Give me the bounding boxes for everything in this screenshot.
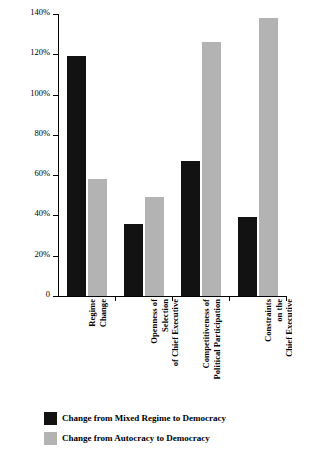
x-axis-category-label-line: of Chief Executive — [170, 299, 181, 403]
y-axis-line — [58, 14, 59, 296]
x-axis-category-label-line: Selection — [159, 299, 170, 403]
bar — [238, 217, 257, 296]
y-axis-tick-label: 140% — [30, 7, 50, 17]
x-axis-category-label-line: Openness of — [149, 299, 160, 403]
y-axis-tick: 20% — [53, 256, 58, 257]
y-axis-tick-label: 40% — [34, 208, 50, 218]
x-axis-category-label-line: on the — [273, 299, 284, 403]
y-axis-tick-label: 20% — [34, 249, 50, 259]
x-axis-category-label: Openness ofSelectionof Chief Executive — [149, 299, 181, 403]
x-axis-category-label-line: Political Participation — [211, 299, 222, 403]
legend-item: Change from Autocracy to Democracy — [44, 428, 292, 448]
y-axis-tick: 100% — [53, 95, 58, 96]
y-axis-tick-label: 100% — [30, 88, 50, 98]
x-axis-category-label-line: Regime — [87, 299, 98, 403]
x-axis-category-label-line: Competitiveness of — [201, 299, 212, 403]
x-axis-category-label-line: Change — [97, 299, 108, 403]
bar — [202, 42, 221, 296]
x-axis-category-label-line: Constraints — [263, 299, 274, 403]
y-axis-tick: 140% — [53, 14, 58, 15]
legend-color-swatch — [44, 432, 57, 445]
bar — [259, 18, 278, 296]
bar — [145, 197, 164, 296]
plot-area: 020%40%60%80%100%120%140% — [58, 14, 286, 296]
legend-item-label: Change from Autocracy to Democracy — [62, 433, 210, 443]
legend-color-swatch — [44, 412, 57, 425]
x-axis-category-labels: RegimeChangeOpenness ofSelectionof Chief… — [58, 299, 286, 403]
x-axis-category-label: Constraintson theChief Executive — [263, 299, 292, 403]
legend-item: Change from Mixed Regime to Democracy — [44, 408, 292, 428]
legend-item-label: Change from Mixed Regime to Democracy — [62, 413, 226, 423]
y-axis-tick-label: 80% — [34, 128, 50, 138]
y-axis-tick-label: 120% — [30, 47, 50, 57]
bar — [181, 161, 200, 296]
x-axis-category-label: RegimeChange — [87, 299, 108, 403]
y-axis-tick: 40% — [53, 215, 58, 216]
bar — [67, 56, 86, 296]
y-axis-tick: 80% — [53, 135, 58, 136]
x-axis-category-label-line: Chief Executive — [284, 299, 292, 403]
bar — [88, 179, 107, 296]
y-axis-tick: 0 — [53, 296, 58, 297]
y-axis-tick-label: 60% — [34, 168, 50, 178]
y-axis-tick: 60% — [53, 175, 58, 176]
bar — [124, 224, 143, 297]
x-axis-category-label: Competitiveness ofPolitical Participatio… — [201, 299, 222, 403]
y-axis-tick-label: 0 — [46, 289, 50, 299]
y-axis-tick: 120% — [53, 54, 58, 55]
chart-legend: Change from Mixed Regime to DemocracyCha… — [44, 408, 292, 448]
